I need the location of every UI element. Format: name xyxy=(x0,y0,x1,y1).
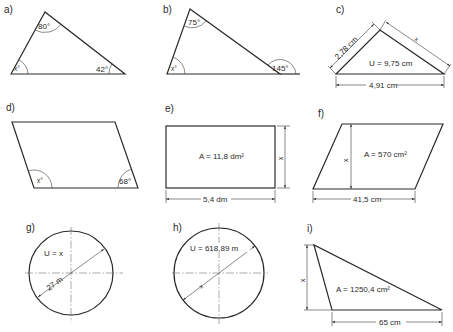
height-value: x xyxy=(277,156,284,160)
angle-left-value: x° xyxy=(171,65,177,72)
angle-arc-left xyxy=(19,60,28,74)
height-value: x xyxy=(342,158,349,162)
figure-a-label: a) xyxy=(4,4,13,15)
perimeter-value: U = 9,75 cm xyxy=(369,59,413,68)
height-value: x xyxy=(299,278,306,282)
figure-a-triangle: a) 80° 42° x° xyxy=(4,4,125,74)
triangle-i-shape xyxy=(314,245,442,310)
angle-right-value: 42° xyxy=(96,65,108,74)
base-value: 41,5 cm xyxy=(353,195,382,204)
extension-line xyxy=(380,20,386,30)
figure-h-circle: h) x U = 618,89 m xyxy=(172,222,268,324)
extension-line xyxy=(444,64,451,74)
geometry-exercise-sheet: a) 80° 42° x° b) 75° 145° x° c) 2,78 cm … xyxy=(0,0,453,332)
width-value: 5,4 dm xyxy=(203,195,228,204)
angle-left-value: x° xyxy=(37,177,43,184)
angle-top-value: 80° xyxy=(38,22,50,31)
figure-f-label: f) xyxy=(318,108,324,119)
area-value: A = 11,8 dm² xyxy=(199,152,244,161)
angle-left-value: x° xyxy=(14,65,20,72)
perimeter-value: U = x xyxy=(44,249,63,258)
base-value: 4,91 cm xyxy=(369,81,398,90)
extension-line xyxy=(372,22,380,30)
angle-arc-right xyxy=(109,64,112,74)
figure-g-circle: g) 27 m U = x xyxy=(25,222,123,322)
figure-f-parallelogram: f) x A = 570 cm² 41,5 cm xyxy=(313,108,443,204)
angle-exterior-value: 145° xyxy=(272,64,289,73)
triangle-b-shape xyxy=(167,9,280,74)
diameter-value: 27 m xyxy=(45,275,65,293)
area-value: A = 1250,4 cm² xyxy=(336,285,390,294)
side-left-value: 2,78 cm xyxy=(333,35,360,62)
figure-b-triangle: b) 75° 145° x° xyxy=(163,4,300,74)
angle-top-value: 75° xyxy=(188,18,200,27)
extension-line xyxy=(328,66,336,74)
area-value: A = 570 cm² xyxy=(364,150,407,159)
figure-i-triangle: i) x A = 1250,4 cm² 65 cm xyxy=(299,223,442,327)
figure-g-label: g) xyxy=(26,222,35,233)
base-value: 65 cm xyxy=(379,318,401,327)
figure-c-label: c) xyxy=(336,4,344,15)
perimeter-value: U = 618,89 m xyxy=(190,244,239,253)
figure-e-label: e) xyxy=(165,103,174,114)
figure-c-triangle: c) 2,78 cm x U = 9,75 cm 4,91 cm xyxy=(328,4,451,90)
figure-b-label: b) xyxy=(163,4,172,15)
figure-i-label: i) xyxy=(307,223,313,234)
figure-d-parallelogram: d) x° 68° xyxy=(6,102,138,188)
figure-d-label: d) xyxy=(6,102,15,113)
figure-h-label: h) xyxy=(173,222,182,233)
angle-right-value: 68° xyxy=(119,177,131,186)
figure-e-rectangle: e) A = 11,8 dm² x 5,4 dm xyxy=(165,103,290,204)
